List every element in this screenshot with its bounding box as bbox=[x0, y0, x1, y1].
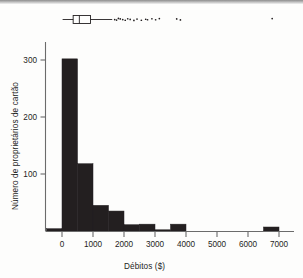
y-tick-label: 100 bbox=[23, 170, 37, 179]
histogram-bar bbox=[155, 230, 171, 231]
boxplot-outlier-point bbox=[127, 18, 129, 20]
chart-canvas: 10020030001000200030004000500060007000 bbox=[0, 0, 303, 278]
boxplot-outlier-point bbox=[155, 19, 157, 21]
y-tick-label: 300 bbox=[23, 56, 37, 65]
x-tick-label: 3000 bbox=[146, 240, 165, 249]
boxplot-outlier-point bbox=[151, 18, 153, 20]
histogram-bars bbox=[47, 59, 280, 231]
boxplot-outlier-point bbox=[116, 19, 118, 21]
histogram-bar bbox=[62, 59, 78, 231]
histogram-bar bbox=[140, 224, 156, 231]
boxplot-outlier-point bbox=[119, 18, 121, 20]
boxplot-outlier-point bbox=[136, 18, 138, 20]
histogram-bar bbox=[124, 225, 140, 231]
x-tick-label: 2000 bbox=[115, 240, 134, 249]
boxplot-outlier-point bbox=[271, 18, 273, 20]
histogram-bar bbox=[109, 211, 125, 231]
boxplot-box bbox=[73, 16, 90, 24]
x-axis-label: Débitos ($) bbox=[124, 262, 165, 271]
boxplot-outlier-point bbox=[129, 19, 131, 21]
boxplot-outlier-point bbox=[176, 18, 178, 20]
boxplot-outlier-point bbox=[133, 20, 135, 22]
boxplot-outlier-point bbox=[180, 19, 182, 21]
y-axis-label: Número de proprietários de cartão bbox=[11, 82, 20, 210]
boxplot-outlier-point bbox=[118, 18, 120, 20]
x-tick-label: 1000 bbox=[84, 240, 103, 249]
x-tick-label: 0 bbox=[60, 240, 65, 249]
boxplot-outlier-point bbox=[145, 18, 147, 20]
x-tick-label: 5000 bbox=[208, 240, 227, 249]
histogram-bar bbox=[47, 229, 63, 231]
histogram-bar bbox=[264, 227, 280, 231]
histogram-bar bbox=[171, 224, 187, 231]
x-tick-label: 6000 bbox=[239, 240, 258, 249]
boxplot-outlier-point bbox=[122, 19, 124, 21]
boxplot-outlier-point bbox=[124, 19, 126, 21]
boxplot-outlier-point bbox=[147, 19, 149, 21]
histogram-bar bbox=[93, 205, 109, 231]
x-tick-label: 4000 bbox=[177, 240, 196, 249]
boxplot-outlier-point bbox=[141, 19, 143, 21]
boxplot-outlier-point bbox=[158, 18, 160, 20]
boxplot-outlier-point bbox=[114, 19, 116, 21]
histogram-bar bbox=[78, 164, 94, 231]
y-tick-label: 200 bbox=[23, 113, 37, 122]
x-tick-label: 7000 bbox=[270, 240, 289, 249]
boxplot-group bbox=[63, 16, 273, 24]
histogram-figure: 10020030001000200030004000500060007000 N… bbox=[0, 0, 303, 278]
